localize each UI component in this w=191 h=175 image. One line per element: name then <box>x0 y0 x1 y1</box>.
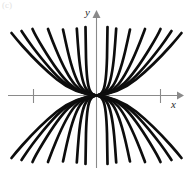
figure-container: (c) <box>0 0 191 175</box>
plot-canvas: x y <box>0 0 191 175</box>
y-axis-arrowhead <box>93 10 101 18</box>
curve-branch <box>97 27 108 96</box>
x-axis-arrowhead <box>177 92 184 100</box>
curve-branch <box>86 27 97 96</box>
curve-branch <box>97 96 108 165</box>
y-axis-label: y <box>84 6 90 18</box>
curve-branch <box>86 96 97 165</box>
x-axis-label: x <box>170 98 176 110</box>
